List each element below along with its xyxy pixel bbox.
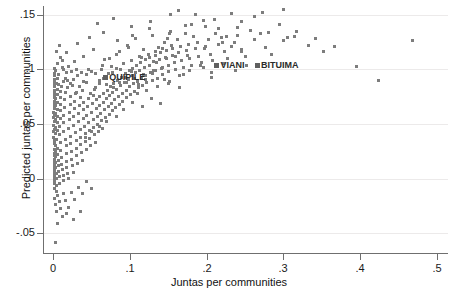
- data-point: [77, 112, 80, 115]
- data-point: [115, 67, 118, 70]
- data-point: [93, 133, 96, 136]
- data-point: [85, 73, 88, 76]
- data-point: [66, 86, 69, 89]
- data-point: [230, 45, 233, 48]
- data-point: [182, 73, 185, 76]
- data-point: [282, 8, 285, 11]
- data-point: [58, 200, 61, 203]
- data-point: [150, 97, 153, 100]
- data-point: [59, 141, 62, 144]
- data-point: [203, 47, 206, 50]
- data-point: [107, 105, 110, 108]
- data-point: [267, 31, 270, 34]
- data-point: [54, 104, 57, 107]
- data-point: [118, 50, 121, 53]
- data-point: [103, 108, 106, 111]
- data-point: [56, 153, 59, 156]
- data-point: [65, 166, 68, 169]
- data-point: [76, 162, 79, 165]
- data-point: [130, 59, 133, 62]
- data-point: [259, 32, 262, 35]
- data-point: [90, 111, 93, 114]
- data-point: [159, 51, 162, 54]
- data-point: [105, 120, 108, 123]
- data-point: [62, 68, 65, 71]
- data-point: [78, 104, 81, 107]
- data-point: [75, 91, 78, 94]
- data-point: [282, 39, 285, 42]
- data-point: [67, 206, 70, 209]
- data-point: [53, 197, 56, 200]
- data-point: [125, 89, 128, 92]
- data-point: [116, 39, 119, 42]
- data-point: [141, 84, 144, 87]
- data-point: [102, 92, 105, 95]
- data-point: [87, 121, 90, 124]
- data-point: [210, 76, 213, 79]
- data-point: [68, 111, 71, 114]
- point-label-bituima: BITUIMA: [261, 60, 299, 70]
- data-point: [173, 61, 176, 64]
- data-point: [163, 41, 166, 44]
- data-point: [89, 144, 92, 147]
- data-point: [115, 115, 118, 118]
- data-point: [111, 91, 114, 94]
- data-point: [98, 82, 101, 85]
- data-point: [286, 36, 289, 39]
- data-point: [79, 136, 82, 139]
- data-point: [95, 107, 98, 110]
- y-tick-mark: [37, 15, 43, 16]
- data-point: [97, 130, 100, 133]
- data-point: [264, 46, 267, 49]
- data-point: [87, 68, 90, 71]
- data-point: [118, 103, 121, 106]
- data-point: [58, 44, 61, 47]
- data-point: [82, 117, 85, 120]
- data-point: [89, 92, 92, 95]
- data-point: [143, 66, 146, 69]
- data-point: [148, 27, 151, 30]
- data-point: [182, 66, 185, 69]
- data-point: [184, 24, 187, 27]
- data-point: [214, 32, 217, 35]
- gridline-y: [44, 124, 448, 125]
- y-tick-mark: [37, 179, 43, 180]
- data-point: [93, 88, 96, 91]
- data-point: [192, 35, 195, 38]
- data-point: [148, 56, 151, 59]
- data-point: [79, 210, 82, 213]
- data-point: [171, 47, 174, 50]
- gridline-y: [44, 15, 448, 16]
- data-point: [64, 199, 67, 202]
- data-point: [62, 114, 65, 117]
- x-tick-mark: [360, 254, 361, 260]
- data-point: [157, 46, 160, 49]
- data-point: [58, 125, 61, 128]
- data-point: [127, 46, 130, 49]
- data-point: [314, 37, 317, 40]
- data-point: [60, 156, 63, 159]
- data-point: [221, 41, 224, 44]
- data-point: [236, 26, 239, 29]
- data-point: [56, 222, 59, 225]
- data-point: [56, 77, 59, 80]
- data-point: [63, 98, 66, 101]
- data-point: [151, 34, 154, 37]
- data-point: [70, 158, 73, 161]
- data-point: [61, 215, 64, 218]
- data-point: [59, 96, 62, 99]
- data-point: [137, 86, 140, 89]
- data-point: [293, 35, 296, 38]
- data-point: [159, 102, 162, 105]
- data-point: [73, 107, 76, 110]
- data-point: [75, 68, 78, 71]
- data-point: [151, 79, 154, 82]
- y-tick-mark: [37, 233, 43, 234]
- data-point: [67, 177, 70, 180]
- data-point: [66, 172, 69, 175]
- data-point: [82, 108, 85, 111]
- data-point: [85, 114, 88, 117]
- data-point: [76, 74, 79, 77]
- data-point: [106, 89, 109, 92]
- data-point: [92, 48, 95, 51]
